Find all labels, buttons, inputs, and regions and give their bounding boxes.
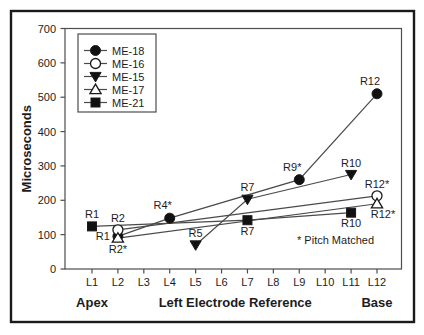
x-tick-label: L2 (112, 276, 124, 288)
x-tick-label: L3 (138, 276, 150, 288)
annotation-pitch-matched: * Pitch Matched (297, 234, 374, 246)
x-tick-label: L7 (241, 276, 253, 288)
y-tick-label: 0 (50, 263, 56, 275)
data-point-label: R2* (109, 243, 128, 255)
x-tick-label: L9 (293, 276, 305, 288)
legend-item-ME-16: ME-16 (84, 58, 144, 70)
data-point-label: R10 (341, 217, 361, 229)
data-point-label: R5 (189, 227, 203, 239)
y-tick-label: 400 (38, 126, 56, 138)
y-tick-label: 500 (38, 91, 56, 103)
data-point-label: R7 (240, 181, 254, 193)
x-tick-label: L6 (215, 276, 227, 288)
legend: ME-18ME-16ME-15ME-17ME-21 (78, 34, 156, 112)
data-point-label: R12* (365, 178, 390, 190)
y-tick-label: 200 (38, 194, 56, 206)
data-point-label: R10 (341, 157, 361, 169)
data-point-marker-ME-21-R7 (243, 216, 252, 225)
data-point-label: R12 (360, 75, 380, 87)
axis-caption-apex: Apex (76, 295, 109, 310)
x-tick-label: L5 (190, 276, 202, 288)
data-point-label: R7 (240, 225, 254, 237)
x-tick-label: L10 (316, 276, 334, 288)
legend-item-label: ME-21 (112, 97, 144, 109)
x-axis-title: Left Electrode Reference (159, 295, 312, 310)
data-point-marker-ME-18-R4* (165, 213, 175, 223)
x-tick-label: L12 (368, 276, 386, 288)
y-tick-label: 600 (38, 57, 56, 69)
legend-item-ME-21: ME-21 (84, 97, 144, 109)
data-point-marker-ME-21-R10 (347, 208, 356, 217)
y-axis-title: Microseconds (19, 105, 34, 192)
data-point-label: R12* (371, 208, 396, 220)
legend-item-ME-18: ME-18 (84, 45, 144, 57)
x-tick-label: L11 (342, 276, 360, 288)
figure-frame: 0100200300400500600700L1L2L3L4L5L6L7L8L9… (0, 0, 424, 335)
filled-circle-icon (91, 46, 101, 56)
data-point-label: R9* (283, 161, 302, 173)
data-point-label: R1 (96, 230, 110, 242)
legend-item-label: ME-15 (112, 71, 144, 83)
legend-item-label: ME-17 (112, 84, 144, 96)
data-point-marker-ME-18-R9* (294, 175, 304, 185)
legend-item-label: ME-16 (112, 58, 144, 70)
data-point-label: R2 (111, 212, 125, 224)
data-point-label: R4* (154, 199, 173, 211)
open-circle-icon (91, 59, 101, 69)
x-tick-label: L8 (267, 276, 279, 288)
data-point-label: R1 (85, 208, 99, 220)
y-tick-label: 700 (38, 23, 56, 35)
y-tick-label: 300 (38, 160, 56, 172)
x-tick-label: L1 (86, 276, 98, 288)
y-tick-label: 100 (38, 229, 56, 241)
filled-square-icon (91, 98, 100, 107)
axis-caption-base: Base (361, 295, 392, 310)
chart-canvas: 0100200300400500600700L1L2L3L4L5L6L7L8L9… (0, 0, 424, 335)
legend-item-label: ME-18 (112, 45, 144, 57)
x-tick-label: L4 (164, 276, 176, 288)
data-point-marker-ME-18-R12 (372, 89, 382, 99)
